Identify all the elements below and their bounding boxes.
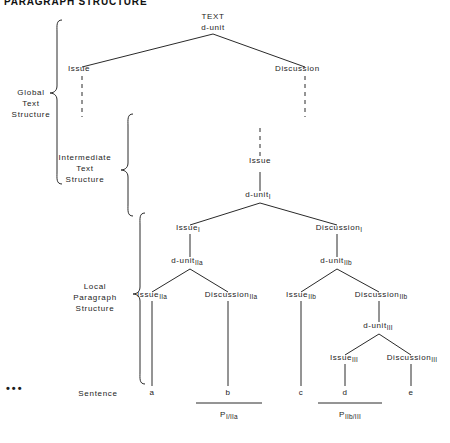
- node-dunit-IIb: d-unitIIb: [320, 256, 351, 268]
- edge-dunitI-issueI: [190, 203, 260, 225]
- node-dunit-I: d-unitI: [245, 190, 271, 202]
- node-root-dunit: d-unit: [201, 23, 225, 33]
- paragraph-structure-diagram: PARAGRAPH STRUCTURE: [0, 0, 450, 443]
- node-dunit-IIa: d-unitIIa: [171, 256, 202, 268]
- leaf-d: d: [342, 388, 347, 398]
- edge-root-issue: [82, 34, 213, 67]
- edge-dunitIII-discussionIII: [379, 334, 411, 355]
- paragraph-label-1: PI/IIa: [220, 410, 238, 422]
- leaf-a: a: [149, 388, 154, 398]
- node-discussion-I: DiscussionI: [316, 223, 363, 235]
- edge-dunitI-discussionI: [260, 203, 337, 225]
- leaf-c: c: [299, 388, 304, 398]
- node-issue-IIa: IssueIIa: [137, 290, 167, 302]
- node-intermediate-issue: Issue: [249, 156, 271, 166]
- ellipsis-marker: •••: [6, 382, 24, 394]
- edge-dunitIIb-discussionIIb: [337, 269, 379, 292]
- node-issue-I: IssueI: [176, 223, 200, 235]
- edge-dunitIIa-issueIIa: [152, 269, 190, 292]
- node-global-issue: Issue: [68, 64, 90, 74]
- leaf-b: b: [225, 388, 230, 398]
- node-global-discussion: Discussion: [275, 64, 320, 74]
- side-label-local: LocalParagraphStructure: [56, 281, 134, 314]
- node-issue-IIb: IssueIIb: [286, 290, 316, 302]
- edge-dunitIIa-discussionIIa: [190, 269, 228, 292]
- node-discussion-IIb: DiscussionIIb: [355, 290, 408, 302]
- side-label-intermediate: IntermediateTextStructure: [46, 152, 124, 185]
- leaf-e: e: [408, 388, 413, 398]
- edge-dunitIIb-issueIIb: [301, 269, 337, 292]
- node-discussion-III: DiscussionIII: [387, 353, 438, 365]
- side-label-sentence: Sentence: [62, 388, 134, 399]
- paragraph-label-2: PIIb/III: [339, 410, 361, 422]
- node-issue-III: IssueIII: [330, 353, 358, 365]
- side-label-global: GlobalTextStructure: [6, 87, 56, 120]
- node-discussion-IIa: DiscussionIIa: [205, 290, 258, 302]
- edge-root-discussion: [213, 34, 305, 67]
- edge-dunitIII-issueIII: [345, 334, 379, 355]
- node-root-text: TEXT: [202, 12, 225, 22]
- node-dunit-III: d-unitIII: [363, 321, 393, 333]
